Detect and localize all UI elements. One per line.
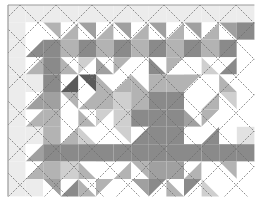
quilt-patch (43, 92, 61, 109)
quilt-patch (184, 57, 202, 74)
quilt-patch (166, 75, 184, 92)
quilt-patch (61, 5, 79, 22)
quilt-patch (131, 57, 149, 74)
quilt-patch (26, 127, 44, 144)
quilt-patch (166, 162, 184, 179)
stitch-line (0, 0, 4, 205)
quilt-patch (184, 144, 202, 161)
quilt-patch (43, 162, 61, 179)
quilt-patch (237, 5, 255, 22)
quilt-patch (202, 162, 220, 179)
quilt-patch (219, 109, 237, 126)
quilt-patch (78, 5, 96, 22)
quilt-patch (149, 162, 167, 179)
quilt-patch (149, 144, 167, 161)
quilt-patch (149, 5, 167, 22)
quilt-patch (237, 127, 255, 144)
quilt-patch (237, 109, 255, 126)
quilt-patch (149, 109, 167, 126)
quilt-patches (8, 5, 254, 196)
quilt-patch (131, 40, 149, 57)
quilt-patch (131, 5, 149, 22)
quilt-patch (219, 179, 237, 196)
quilt-patch (114, 40, 132, 57)
quilt-patch (149, 127, 167, 144)
quilt-patch (166, 144, 184, 161)
quilt-patch (114, 144, 132, 161)
quilt-patch (61, 109, 79, 126)
quilt-patch (8, 127, 26, 144)
quilt-patch (96, 127, 114, 144)
quilt-patch (184, 92, 202, 109)
quilt-patch (43, 109, 61, 126)
quilt-patch (219, 5, 237, 22)
quilt-patch (43, 127, 61, 144)
quilt-patch (166, 5, 184, 22)
quilt-patch (237, 40, 255, 57)
quilt-patch (96, 144, 114, 161)
quilt-patch (114, 179, 132, 196)
quilt-patch (184, 5, 202, 22)
quilt-patch (96, 5, 114, 22)
quilt-patch (202, 5, 220, 22)
quilt-patch (114, 5, 132, 22)
quilt-patch (114, 92, 132, 109)
quilt-patch (8, 40, 26, 57)
quilt-patch (219, 127, 237, 144)
quilt-patch (8, 144, 26, 161)
quilt-image (0, 0, 263, 205)
quilt-patch (166, 127, 184, 144)
quilt-patch (78, 144, 96, 161)
quilt-patch (8, 22, 26, 39)
quilt-patch (61, 144, 79, 161)
quilt-patch (8, 162, 26, 179)
quilt-patch (43, 40, 61, 57)
quilt-patch (8, 57, 26, 74)
quilt-patch (237, 75, 255, 92)
quilt-patch (8, 109, 26, 126)
quilt-patch (26, 75, 44, 92)
quilt-patch (131, 144, 149, 161)
quilt-patch (149, 40, 167, 57)
quilt-patch (237, 57, 255, 74)
quilt-patch (43, 57, 61, 74)
quilt-patch (131, 109, 149, 126)
quilt-patch (43, 75, 61, 92)
quilt-patch (202, 40, 220, 57)
quilt-patch (8, 75, 26, 92)
quilt-patch (61, 162, 79, 179)
quilt-pattern-canvas (0, 0, 263, 205)
quilt-patch (237, 92, 255, 109)
quilt-patch (96, 162, 114, 179)
quilt-patch (96, 40, 114, 57)
quilt-patch (202, 75, 220, 92)
quilt-patch (8, 92, 26, 109)
quilt-patch (166, 40, 184, 57)
